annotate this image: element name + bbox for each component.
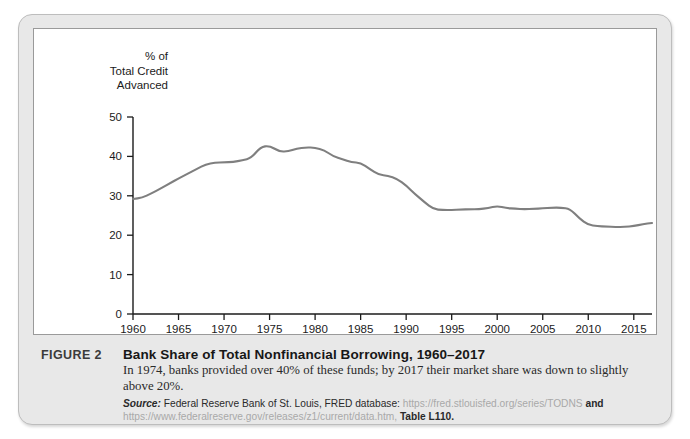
x-tick-label: 2000 — [484, 323, 510, 335]
x-tick-label: 2010 — [575, 323, 601, 335]
caption-heading-row: FIGURE 2 Bank Share of Total Nonfinancia… — [41, 347, 657, 362]
y-tick-label: 20 — [109, 229, 122, 241]
source-table-ref: Table L110. — [400, 411, 454, 422]
x-tick-label: 1980 — [302, 323, 328, 335]
y-tick-label: 10 — [109, 269, 122, 281]
figure-source-line: Source: Federal Reserve Bank of St. Loui… — [123, 397, 657, 423]
x-tick-label: 2005 — [530, 323, 556, 335]
x-tick-label: 1985 — [348, 323, 374, 335]
source-conjunction: and — [585, 398, 603, 409]
x-axis-ticks: 1960196519701975198019851990199520002005… — [120, 314, 646, 335]
data-series-line — [133, 146, 652, 227]
figure-number-label: FIGURE 2 — [41, 348, 123, 362]
y-axis-ticks: 01020304050 — [109, 111, 133, 320]
y-tick-label: 40 — [109, 150, 122, 162]
figure-description: In 1974, banks provided over 40% of thes… — [123, 363, 633, 394]
figure-caption: FIGURE 2 Bank Share of Total Nonfinancia… — [19, 341, 673, 426]
y-tick-label: 30 — [109, 190, 122, 202]
x-tick-label: 1975 — [257, 323, 283, 335]
x-tick-label: 1990 — [393, 323, 419, 335]
line-chart: 01020304050 1960196519701975198019851990… — [34, 29, 658, 336]
source-word: Source: — [123, 398, 161, 409]
y-tick-label: 50 — [109, 111, 122, 123]
x-tick-label: 1965 — [166, 323, 192, 335]
source-url-2[interactable]: https://www.federalreserve.gov/releases/… — [123, 411, 397, 422]
x-tick-label: 1995 — [439, 323, 465, 335]
figure-title: Bank Share of Total Nonfinancial Borrowi… — [123, 347, 485, 362]
source-text: Federal Reserve Bank of St. Louis, FRED … — [164, 398, 400, 409]
x-tick-label: 1970 — [211, 323, 237, 335]
chart-panel: % of Total Credit Advanced 01020304050 1… — [33, 28, 657, 335]
chart-axes — [133, 117, 652, 314]
source-url-1[interactable]: https://fred.stlouisfed.org/series/TODNS — [403, 398, 583, 409]
x-tick-label: 2015 — [621, 323, 647, 335]
figure-card: % of Total Credit Advanced 01020304050 1… — [18, 14, 672, 425]
y-tick-label: 0 — [116, 308, 122, 320]
x-tick-label: 1960 — [120, 323, 146, 335]
